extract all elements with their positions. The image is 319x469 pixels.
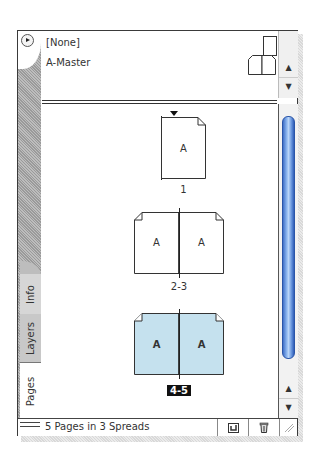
resize-grip-icon[interactable] — [279, 419, 298, 436]
trash-icon — [259, 422, 269, 433]
masters-scroll-down[interactable]: ▼ — [279, 77, 298, 94]
spread-label: 2-3 — [134, 281, 224, 292]
spread-page-icon[interactable] — [248, 55, 276, 75]
tab-layers[interactable]: Layers — [20, 314, 41, 362]
new-page-button[interactable] — [217, 419, 248, 436]
status-text: 5 Pages in 3 Spreads — [45, 421, 149, 432]
pages-scroll-down[interactable]: ▼ — [279, 398, 298, 415]
status-bar: 5 Pages in 3 Spreads — [18, 418, 297, 436]
tab-info[interactable]: Info — [20, 274, 41, 314]
resize-handle-icon[interactable] — [20, 422, 40, 427]
masters-scroll-up[interactable]: ▲ — [279, 59, 298, 75]
panel-tab-strip: Info Layers Pages — [18, 31, 41, 418]
master-a-master[interactable]: A-Master — [46, 57, 90, 68]
pages-scroll-up[interactable]: ▲ — [279, 380, 298, 396]
single-page-icon[interactable] — [263, 36, 277, 56]
current-page-marker-icon — [170, 111, 178, 116]
spread-label-selected: 4-5 — [167, 385, 191, 396]
masters-section: [None] A-Master — [42, 31, 277, 98]
spread-label: 1 — [161, 184, 206, 195]
pages-scrollbar[interactable]: ▲ ▼ — [278, 104, 298, 418]
panel-menu-icon[interactable] — [21, 34, 34, 47]
scroll-thumb[interactable] — [282, 116, 295, 359]
new-page-icon — [228, 423, 239, 433]
tab-pages[interactable]: Pages — [20, 362, 41, 419]
masters-scrollbar[interactable]: ▲ ▼ — [278, 31, 298, 98]
pages-canvas: A 1 A A 2-3 — [42, 104, 278, 418]
delete-page-button[interactable] — [248, 419, 279, 436]
master-none[interactable]: [None] — [46, 37, 80, 48]
pages-panel: Info Layers Pages [None] A-Master ▲ ▼ — [17, 30, 298, 436]
